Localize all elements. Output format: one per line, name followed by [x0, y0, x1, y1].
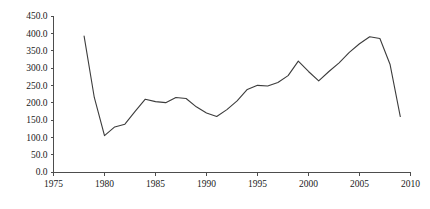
y-tick-label: 450.0 — [26, 11, 48, 21]
x-tick-label: 2000 — [299, 179, 318, 189]
y-tick-label: 100.0 — [26, 133, 48, 143]
y-tick-label: 300.0 — [26, 63, 48, 73]
x-tick-label: 1990 — [197, 179, 216, 189]
line-chart: 0.050.0100.0150.0200.0250.0300.0350.0400… — [0, 0, 430, 209]
x-tick-label: 1995 — [248, 179, 267, 189]
x-tick-label: 2010 — [401, 179, 420, 189]
y-tick-label: 50.0 — [31, 150, 48, 160]
y-tick-label: 250.0 — [26, 81, 48, 91]
y-tick-label: 150.0 — [26, 115, 48, 125]
chart-container: 0.050.0100.0150.0200.0250.0300.0350.0400… — [0, 0, 430, 209]
x-axis-tick-labels: 19751980198519901995200020052010 — [44, 179, 420, 189]
y-axis-tick-labels: 0.050.0100.0150.0200.0250.0300.0350.0400… — [26, 11, 48, 177]
y-tick-label: 350.0 — [26, 46, 48, 56]
data-line-series-1 — [84, 36, 400, 135]
y-tick-label: 0.0 — [36, 167, 48, 177]
x-axis: 19751980198519901995200020052010 — [44, 172, 420, 189]
x-tick-label: 1980 — [95, 179, 114, 189]
x-tick-label: 1975 — [44, 179, 63, 189]
y-axis: 0.050.0100.0150.0200.0250.0300.0350.0400… — [26, 11, 53, 177]
y-tick-label: 200.0 — [26, 98, 48, 108]
y-tick-label: 400.0 — [26, 29, 48, 39]
x-tick-label: 2005 — [350, 179, 369, 189]
plot-area — [84, 36, 400, 135]
x-tick-label: 1985 — [146, 179, 165, 189]
